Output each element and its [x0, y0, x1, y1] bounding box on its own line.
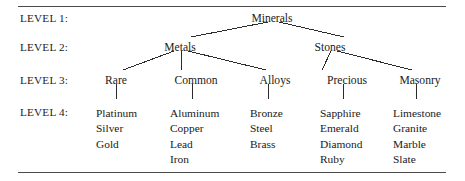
- level-label-1: LEVEL 1:: [20, 12, 68, 24]
- bottom-rule: [18, 172, 446, 173]
- leaf-item: Emerald: [320, 121, 362, 136]
- leaf-column-alloys: BronzeSteelBrass: [250, 106, 283, 152]
- leaf-item: Granite: [393, 121, 441, 136]
- node-rare: Rare: [105, 74, 127, 87]
- leaf-item: Iron: [170, 152, 219, 167]
- hierarchy-diagram: LEVEL 1:LEVEL 2:LEVEL 3:LEVEL 4: Mineral…: [0, 0, 465, 181]
- node-metals: Metals: [164, 41, 196, 54]
- leaf-column-common: AluminumCopperLeadIron: [170, 106, 219, 168]
- leaf-item: Sapphire: [320, 106, 362, 121]
- node-common: Common: [174, 74, 217, 87]
- leaf-column-rare: PlatinumSilverGold: [96, 106, 137, 152]
- leaf-item: Lead: [170, 137, 219, 152]
- level-label-2: LEVEL 2:: [20, 41, 68, 53]
- leaf-item: Bronze: [250, 106, 283, 121]
- leaf-item: Brass: [250, 137, 283, 152]
- leaf-item: Platinum: [96, 106, 137, 121]
- leaf-item: Silver: [96, 121, 137, 136]
- level-label-3: LEVEL 3:: [20, 74, 68, 86]
- leaf-item: Aluminum: [170, 106, 219, 121]
- leaf-item: Slate: [393, 152, 441, 167]
- node-masonry: Masonry: [399, 74, 440, 87]
- leaf-column-precious: SapphireEmeraldDiamondRuby: [320, 106, 362, 168]
- leaf-item: Gold: [96, 137, 137, 152]
- top-rule: [18, 6, 446, 7]
- leaf-item: Limestone: [393, 106, 441, 121]
- leaf-item: Marble: [393, 137, 441, 152]
- leaf-item: Copper: [170, 121, 219, 136]
- node-precious: Precious: [327, 74, 367, 87]
- leaf-item: Steel: [250, 121, 283, 136]
- leaf-item: Diamond: [320, 137, 362, 152]
- node-alloys: Alloys: [260, 74, 291, 87]
- node-stones: Stones: [315, 41, 346, 54]
- leaf-column-masonry: LimestoneGraniteMarbleSlate: [393, 106, 441, 168]
- leaf-item: Ruby: [320, 152, 362, 167]
- edge-stones-to-masonry: [337, 51, 412, 70]
- edge-metals-to-alloys: [188, 51, 266, 70]
- node-minerals: Minerals: [251, 12, 292, 25]
- level-label-4: LEVEL 4:: [20, 106, 68, 118]
